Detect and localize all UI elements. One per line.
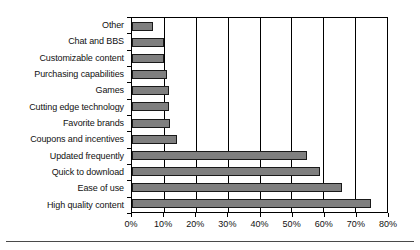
x-tick-label: 30% [218,219,236,230]
bar [132,86,169,95]
bar-row [132,34,387,50]
x-tick-label: 80% [379,219,397,230]
bar-row [132,50,387,66]
x-tick [195,213,196,217]
x-tick-label: 10% [154,219,172,230]
bar [132,135,177,144]
x-tick-label: 70% [347,219,365,230]
category-label: Coupons and incentives [0,131,128,147]
x-tick-label: 40% [250,219,268,230]
bar-row [132,67,387,83]
bar-chart: OtherChat and BBSCustomizable contentPur… [0,0,420,250]
x-tick [292,213,293,217]
bar-row [132,99,387,115]
x-tick [324,213,325,217]
x-tick-label: 50% [283,219,301,230]
x-tick-label: 60% [315,219,333,230]
plot-area [131,17,388,213]
bar [132,167,320,176]
bar [132,22,153,31]
bar [132,183,342,192]
x-tick [388,213,389,217]
bar [132,151,307,160]
x-tick [260,213,261,217]
category-label: Cutting edge technology [0,99,128,115]
category-label: High quality content [0,197,128,213]
category-label: Chat and BBS [0,33,128,49]
bar-row [132,115,387,131]
bar [132,70,167,79]
category-label: Other [0,17,128,33]
bar [132,102,169,111]
x-tick-label: 20% [186,219,204,230]
category-label: Customizable content [0,50,128,66]
bar-row [132,83,387,99]
category-label: Favorite brands [0,115,128,131]
x-tick [227,213,228,217]
x-axis-ticks [131,213,388,218]
category-label: Ease of use [0,180,128,196]
bar [132,54,164,63]
bars-layer [132,18,387,212]
bar-row [132,196,387,212]
category-label: Games [0,82,128,98]
bar [132,119,170,128]
category-label: Updated frequently [0,148,128,164]
category-label: Purchasing capabilities [0,66,128,82]
bar-row [132,147,387,163]
bar-row [132,180,387,196]
bar-row [132,164,387,180]
bar-row [132,18,387,34]
bottom-divider [6,241,414,242]
x-tick-label: 0% [124,219,137,230]
x-axis-tick-labels: 0%10%20%30%40%50%60%70%80% [131,219,388,231]
x-tick [131,213,132,217]
bar [132,199,371,208]
bar-row [132,131,387,147]
category-axis-labels: OtherChat and BBSCustomizable contentPur… [0,17,128,213]
x-tick [163,213,164,217]
bar [132,38,164,47]
category-label: Quick to download [0,164,128,180]
x-tick [356,213,357,217]
